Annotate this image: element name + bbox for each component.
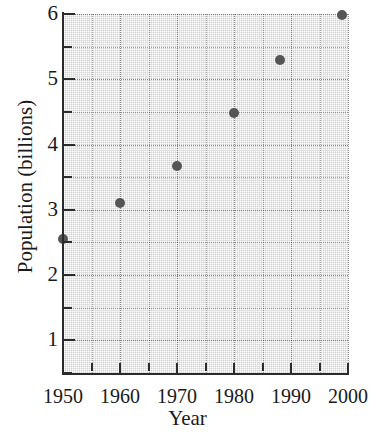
x-tick-major (233, 363, 235, 374)
y-tick-minor (64, 241, 72, 243)
y-tick-label: 6 (14, 3, 58, 24)
x-tick-label: 2000 (313, 386, 375, 406)
data-point (229, 108, 239, 118)
y-axis-line (62, 12, 64, 375)
gridline-vertical-minor (92, 14, 93, 373)
y-tick-major (64, 78, 75, 80)
x-tick-major (290, 363, 292, 374)
data-point (275, 55, 285, 65)
gridline-horizontal (63, 14, 348, 15)
gridline-horizontal-minor (63, 112, 348, 113)
gridline-vertical (177, 14, 178, 373)
x-tick-minor (148, 363, 150, 371)
gridline-vertical (234, 14, 235, 373)
data-point (172, 161, 182, 171)
gridline-vertical-minor (149, 14, 150, 373)
gridline-vertical (120, 14, 121, 373)
y-tick-minor (64, 46, 72, 48)
x-tick-major (62, 363, 64, 374)
x-tick-major (119, 363, 121, 374)
x-tick-major (176, 363, 178, 374)
gridline-horizontal-minor (63, 47, 348, 48)
x-tick-minor (319, 363, 321, 371)
x-tick-minor (205, 363, 207, 371)
y-tick-minor (64, 307, 72, 309)
gridline-horizontal (63, 210, 348, 211)
data-point (337, 10, 347, 20)
x-tick-minor (91, 363, 93, 371)
y-axis-title: Population (billions) (15, 67, 36, 307)
x-tick-major (347, 363, 349, 374)
y-tick-major (64, 339, 75, 341)
y-tick-major (64, 144, 75, 146)
gridline-horizontal-minor (63, 308, 348, 309)
x-axis-line (62, 373, 349, 375)
gridline-vertical-minor (206, 14, 207, 373)
y-tick-minor (64, 372, 72, 374)
gridline-horizontal (63, 79, 348, 80)
plot-area (63, 14, 348, 373)
population-scatter-chart: 123456 195019601970198019902000 Year Pop… (0, 0, 375, 433)
x-axis-title: Year (0, 408, 375, 429)
gridline-vertical (348, 14, 349, 373)
y-tick-minor (64, 176, 72, 178)
gridline-vertical-minor (263, 14, 264, 373)
gridline-vertical-minor (320, 14, 321, 373)
data-point (115, 198, 125, 208)
gridline-horizontal (63, 275, 348, 276)
y-tick-major (64, 13, 75, 15)
y-tick-minor (64, 111, 72, 113)
y-tick-major (64, 274, 75, 276)
y-tick-label: 1 (14, 329, 58, 350)
gridline-horizontal-minor (63, 177, 348, 178)
y-tick-major (64, 209, 75, 211)
minor-gridlines (63, 14, 348, 373)
gridline-horizontal-minor (63, 242, 348, 243)
gridline-horizontal (63, 340, 348, 341)
gridline-vertical (291, 14, 292, 373)
x-tick-minor (262, 363, 264, 371)
gridline-horizontal (63, 145, 348, 146)
